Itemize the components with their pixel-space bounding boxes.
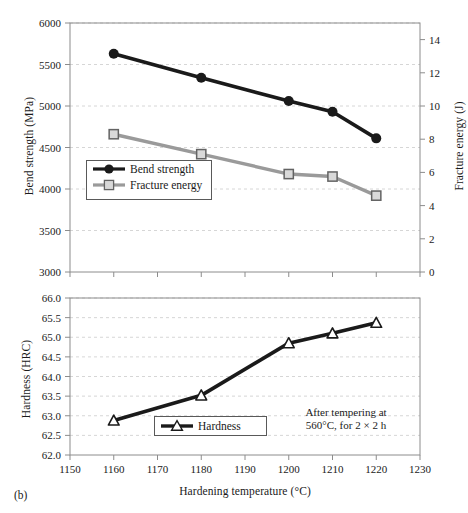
bottom-chart-x-tick-label: 1160 [103, 463, 125, 473]
figure-container: 300035004000450050005500600002468101214 … [0, 0, 468, 513]
bottom-chart-x-tick-label: 1230 [409, 463, 432, 473]
top-chart-y-tick-label: 4000 [39, 183, 62, 195]
top-chart-y2-tick-label: 6 [429, 166, 435, 178]
bottom-chart-y-tick-label: 66.0 [42, 292, 62, 304]
top-chart-y2-axis-title: Fracture energy (J) [453, 66, 465, 226]
top-chart-y-tick-label: 5500 [39, 59, 62, 71]
bottom-chart-x-tick-label: 1200 [278, 463, 301, 473]
bend-strength-data-point [328, 107, 338, 117]
top-chart-y2-tick-label: 14 [429, 34, 441, 46]
top-chart-y-tick-label: 3000 [39, 266, 62, 278]
panel-label: (b) [14, 489, 27, 501]
bottom-chart-x-tick-label: 1180 [190, 463, 212, 473]
top-chart-y2-tick-label: 12 [429, 67, 440, 79]
top-chart-y-tick-label: 3500 [39, 225, 62, 237]
bottom-chart-y-axis-title: Hardness (HRC) [20, 304, 32, 454]
top-chart-y2-tick-label: 0 [429, 266, 435, 278]
top-chart-plot: 300035004000450050005500600002468101214 [0, 0, 468, 290]
filled-circle-marker-icon [92, 162, 126, 176]
top-chart-y2-tick-label: 4 [429, 200, 435, 212]
top-chart-y2-tick-label: 2 [429, 233, 435, 245]
bottom-chart-x-tick-label: 1190 [234, 463, 256, 473]
top-chart-y-tick-label: 6000 [39, 17, 62, 29]
bottom-chart-plot: 62.062.563.063.564.064.565.065.566.01150… [0, 288, 468, 473]
bottom-chart-y-tick-label: 64.5 [42, 351, 62, 363]
legend-label-fracture-energy: Fracture energy [126, 179, 202, 191]
top-chart-y-tick-label: 5000 [39, 100, 62, 112]
bottom-chart-y-tick-label: 65.5 [42, 312, 62, 324]
bottom-chart-y-tick-label: 64.0 [42, 371, 62, 383]
bend-strength-line [114, 54, 377, 139]
bottom-chart-x-axis-title: Hardening temperature (°C) [145, 485, 345, 497]
tempering-annotation: After tempering at 560°C, for 2 × 2 h [281, 406, 411, 432]
top-chart-y-axis-title: Bend strength (MPa) [23, 66, 35, 226]
bottom-chart-legend: Hardness [154, 416, 267, 436]
open-square-marker-icon [92, 178, 126, 192]
top-chart-y2-tick-label: 10 [429, 100, 441, 112]
top-chart-y-tick-label: 4500 [39, 142, 62, 154]
bottom-chart-x-tick-label: 1220 [365, 463, 388, 473]
open-triangle-marker-icon [160, 419, 194, 433]
bottom-chart-y-tick-label: 63.0 [42, 410, 62, 422]
fracture-energy-data-point [109, 130, 118, 139]
legend-label-hardness: Hardness [194, 420, 241, 432]
tempering-annotation-line-1: After tempering at [281, 406, 411, 419]
bend-strength-data-point [284, 96, 294, 106]
tempering-annotation-line-2: 560°C, for 2 × 2 h [281, 419, 411, 432]
bottom-chart-y-tick-label: 62.5 [42, 429, 62, 441]
bottom-chart-x-tick-label: 1210 [322, 463, 345, 473]
bottom-chart-x-tick-label: 1150 [59, 463, 81, 473]
fracture-energy-data-point [284, 169, 293, 178]
bend-strength-data-point [109, 49, 119, 59]
legend-item-hardness[interactable]: Hardness [155, 417, 266, 435]
bottom-chart-y-tick-label: 62.0 [42, 449, 62, 461]
bottom-chart-y-tick-label: 63.5 [42, 390, 62, 402]
top-chart-y2-tick-label: 8 [429, 133, 435, 145]
fracture-energy-data-point [197, 150, 206, 159]
legend-label-bend-strength: Bend strength [126, 163, 194, 175]
bottom-chart-x-tick-label: 1170 [147, 463, 169, 473]
legend-item-bend-strength[interactable]: Bend strength [87, 161, 211, 177]
legend-item-fracture-energy[interactable]: Fracture energy [87, 177, 211, 193]
bend-strength-data-point [196, 73, 206, 83]
bend-strength-data-point [371, 133, 381, 143]
top-chart-legend: Bend strength Fracture energy [86, 160, 212, 200]
fracture-energy-data-point [328, 172, 337, 181]
fracture-energy-data-point [372, 191, 381, 200]
bottom-chart-y-tick-label: 65.0 [42, 331, 62, 343]
